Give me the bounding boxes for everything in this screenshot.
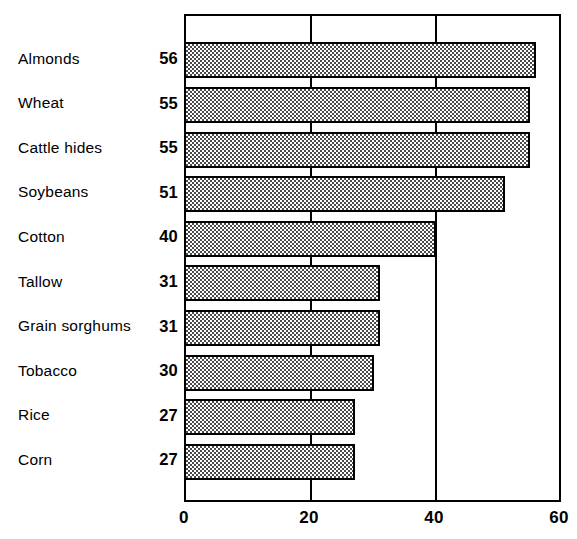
category-label: Grain sorghums: [18, 318, 131, 334]
category-value: 27: [159, 451, 178, 468]
category-row: Tobacco30: [0, 353, 184, 389]
category-row: Corn27: [0, 442, 184, 478]
category-label-column: Almonds56Wheat55Cattle hides55Soybeans51…: [0, 14, 184, 502]
category-label: Corn: [18, 452, 52, 468]
category-value: 30: [159, 362, 178, 379]
bar: [184, 444, 355, 480]
category-row: Soybeans51: [0, 174, 184, 210]
category-label: Cotton: [18, 229, 65, 245]
category-label: Almonds: [18, 51, 80, 67]
category-label: Rice: [18, 407, 50, 423]
bar: [184, 221, 436, 257]
bar: [184, 42, 536, 78]
category-value: 40: [159, 228, 178, 245]
category-row: Grain sorghums31: [0, 308, 184, 344]
category-value: 31: [159, 273, 178, 290]
category-row: Cattle hides55: [0, 130, 184, 166]
category-row: Rice27: [0, 397, 184, 433]
bar-chart: Almonds56Wheat55Cattle hides55Soybeans51…: [0, 0, 577, 539]
category-label: Wheat: [18, 95, 64, 111]
category-value: 55: [159, 139, 178, 156]
bar: [184, 355, 374, 391]
bar: [184, 399, 355, 435]
category-label: Soybeans: [18, 184, 89, 200]
bar: [184, 87, 530, 123]
category-label: Tallow: [18, 274, 62, 290]
category-value: 56: [159, 50, 178, 67]
category-value: 55: [159, 95, 178, 112]
category-value: 31: [159, 318, 178, 335]
category-row: Tallow31: [0, 263, 184, 299]
bar: [184, 310, 380, 346]
category-row: Cotton40: [0, 219, 184, 255]
x-tick-label-20: 20: [299, 509, 319, 526]
category-row: Wheat55: [0, 85, 184, 121]
category-label: Cattle hides: [18, 140, 102, 156]
category-label: Tobacco: [18, 363, 77, 379]
x-axis: 0204060: [184, 502, 561, 539]
x-tick-label-40: 40: [424, 509, 444, 526]
plot-inner: [186, 16, 559, 500]
category-value: 51: [159, 184, 178, 201]
bar: [184, 176, 505, 212]
category-value: 27: [159, 407, 178, 424]
category-row: Almonds56: [0, 40, 184, 76]
x-tick-label-60: 60: [549, 509, 569, 526]
plot-area: [184, 14, 561, 502]
bar: [184, 132, 530, 168]
bar: [184, 265, 380, 301]
x-tick-label-0: 0: [179, 509, 189, 526]
